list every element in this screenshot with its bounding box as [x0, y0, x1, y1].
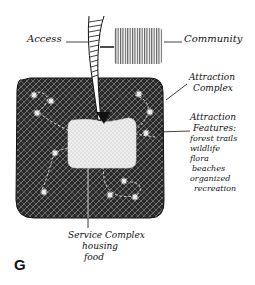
attraction-complex-label: Attraction Complex	[189, 72, 235, 94]
asterisk-star-icon	[143, 130, 149, 136]
service-item: food	[68, 252, 145, 263]
attraction-complex-label-line1: Attraction	[189, 72, 235, 83]
attraction-features-label: Attraction Features: forest trails wildl…	[190, 112, 237, 194]
asterisk-star-icon	[34, 110, 40, 116]
service-item: housing	[68, 241, 145, 252]
feature-item: wildlife	[190, 144, 237, 154]
asterisk-star-icon	[41, 189, 47, 195]
feature-item: flora	[190, 154, 237, 164]
asterisk-star-icon	[147, 109, 153, 115]
service-complex-title: Service Complex	[68, 230, 145, 241]
community-label: Community	[184, 34, 242, 44]
attraction-features-title-line1: Attraction	[190, 112, 237, 123]
asterisk-star-icon	[52, 150, 58, 156]
feature-item: recreation	[190, 184, 237, 194]
asterisk-star-icon	[31, 92, 37, 98]
community-block	[114, 28, 162, 64]
attraction-features-title-line2: Features:	[190, 123, 237, 134]
feature-item: organized	[190, 174, 237, 184]
asterisk-star-icon	[136, 91, 142, 97]
attraction-complex-label-line2: Complex	[189, 83, 235, 94]
asterisk-star-icon	[107, 192, 113, 198]
asterisk-star-icon	[48, 98, 54, 104]
figure-letter: G	[14, 256, 26, 273]
service-complex-area	[68, 118, 136, 168]
service-complex-label: Service Complex housing food	[68, 230, 145, 263]
access-label: Access	[27, 34, 62, 44]
feature-item: forest trails	[190, 134, 237, 144]
tourism-diagram: Access Community Attraction Complex Attr…	[0, 0, 255, 285]
asterisk-star-icon	[121, 178, 127, 184]
asterisk-star-icon	[132, 194, 138, 200]
feature-item: beaches	[190, 164, 237, 174]
